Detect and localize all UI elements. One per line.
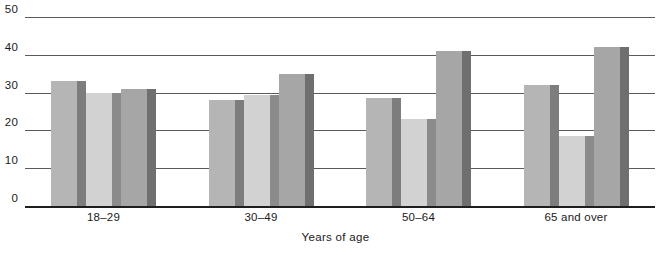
bar-face bbox=[559, 136, 585, 206]
bar-face bbox=[121, 89, 147, 206]
bar-face bbox=[594, 47, 620, 206]
bar-face bbox=[279, 74, 305, 206]
x-axis-title: Years of age bbox=[0, 231, 671, 243]
bar-side-face bbox=[112, 93, 121, 206]
x-axis-category-label: 65 and over bbox=[545, 211, 608, 223]
bar bbox=[524, 85, 559, 206]
bar-side-face bbox=[550, 85, 559, 206]
x-axis-category-label: 18–29 bbox=[87, 211, 120, 223]
bar bbox=[366, 98, 401, 206]
bar-side-face bbox=[585, 136, 594, 206]
bar bbox=[401, 119, 436, 206]
y-axis-tick-label: 50 bbox=[5, 3, 18, 15]
bar-side-face bbox=[620, 47, 629, 206]
bar bbox=[279, 74, 314, 206]
y-axis-tick-label: 10 bbox=[5, 154, 18, 166]
bar-face bbox=[209, 100, 235, 206]
bar-side-face bbox=[392, 98, 401, 206]
bar-side-face bbox=[427, 119, 436, 206]
bar-face bbox=[51, 81, 77, 206]
bar bbox=[121, 89, 156, 206]
bar-face bbox=[401, 119, 427, 206]
bar-side-face bbox=[77, 81, 86, 206]
bar-side-face bbox=[235, 100, 244, 206]
bar bbox=[86, 93, 121, 206]
y-axis-tick-label: 20 bbox=[5, 116, 18, 128]
bar-face bbox=[86, 93, 112, 206]
bar-face bbox=[244, 95, 270, 207]
y-axis-tick-label: 30 bbox=[5, 78, 18, 90]
x-axis-line bbox=[25, 206, 655, 208]
bar bbox=[436, 51, 471, 206]
x-axis-category-label: 30–49 bbox=[245, 211, 278, 223]
bar bbox=[244, 95, 279, 207]
plot-area: 01020304050 bbox=[25, 17, 655, 206]
bars-layer bbox=[25, 17, 655, 206]
bar-face bbox=[524, 85, 550, 206]
bar bbox=[209, 100, 244, 206]
bar-face bbox=[436, 51, 462, 206]
bar-face bbox=[366, 98, 392, 206]
bar-side-face bbox=[305, 74, 314, 206]
y-axis-tick-label: 40 bbox=[5, 41, 18, 53]
bar bbox=[51, 81, 86, 206]
bar-side-face bbox=[147, 89, 156, 206]
y-axis-tick-label: 0 bbox=[11, 192, 18, 204]
bar-chart: 01020304050 18–2930–4950–6465 and over Y… bbox=[0, 0, 671, 255]
bar bbox=[594, 47, 629, 206]
bar-side-face bbox=[462, 51, 471, 206]
bar-side-face bbox=[270, 95, 279, 207]
bar bbox=[559, 136, 594, 206]
x-axis-category-label: 50–64 bbox=[402, 211, 435, 223]
